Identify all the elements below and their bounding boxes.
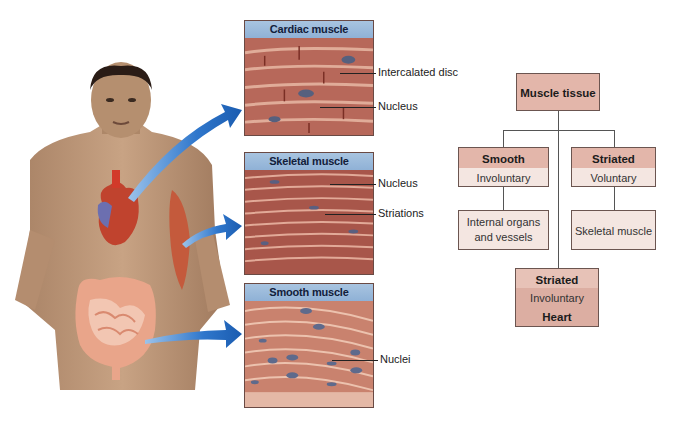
striated-voluntary-subtitle: Voluntary <box>591 172 637 184</box>
smooth-title: Smooth <box>482 153 525 165</box>
leader-line <box>340 73 376 74</box>
panel-title: Cardiac muscle <box>245 21 373 38</box>
smooth-muscle-micrograph <box>245 301 373 407</box>
smooth-muscle-panel: Smooth muscle <box>244 283 374 408</box>
leader-line <box>332 360 378 361</box>
label-striations: Striations <box>378 207 424 219</box>
flowchart-heart-box: Striated Involuntary Heart <box>515 268 599 327</box>
flowchart-striated-voluntary-box: Striated Voluntary <box>571 147 656 187</box>
cardiac-muscle-micrograph <box>245 38 373 135</box>
skeletal-muscle-micrograph <box>245 170 373 274</box>
leader-line <box>325 214 376 215</box>
label-nucleus-cardiac: Nucleus <box>378 100 418 112</box>
label-intercalated-disc: Intercalated disc <box>378 66 458 78</box>
flowchart-root-box: Muscle tissue <box>516 73 600 111</box>
heart-box-subtitle: Involuntary <box>530 292 584 304</box>
label-nuclei: Nuclei <box>380 353 411 365</box>
label-nucleus-skeletal: Nucleus <box>378 177 418 189</box>
skeletal-location-label: Skeletal muscle <box>575 225 652 237</box>
flowchart-smooth-box: Smooth Involuntary <box>458 147 549 187</box>
smooth-location-line1: Internal organs <box>459 215 548 230</box>
smooth-location-line2: and vessels <box>459 230 548 245</box>
leader-line <box>330 184 376 185</box>
connector-line <box>558 111 559 268</box>
connector-line <box>503 130 504 147</box>
panel-title: Smooth muscle <box>245 284 373 301</box>
heart-box-title: Striated <box>536 274 579 286</box>
panel-title: Skeletal muscle <box>245 153 373 170</box>
striated-voluntary-title: Striated <box>592 153 635 165</box>
heart-box-location: Heart <box>542 311 571 323</box>
smooth-subtitle: Involuntary <box>477 172 531 184</box>
human-figure-illustration <box>0 0 250 423</box>
flowchart-skeletal-location-box: Skeletal muscle <box>571 210 656 250</box>
connector-line <box>503 187 504 210</box>
flowchart-smooth-location-box: Internal organs and vessels <box>458 210 549 250</box>
cardiac-muscle-panel: Cardiac muscle <box>244 20 374 136</box>
connector-line <box>614 130 615 147</box>
connector-line <box>503 130 614 131</box>
leader-line <box>320 107 376 108</box>
root-label: Muscle tissue <box>520 87 595 99</box>
connector-line <box>614 187 615 210</box>
